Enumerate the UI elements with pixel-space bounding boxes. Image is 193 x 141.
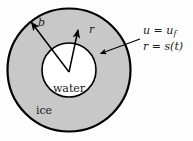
b-vector-label: b [38,16,45,29]
water-region-label: water [53,82,86,95]
ice-water-stefan-diagram: b r water ice u = uf r = s(t) [0,0,193,141]
r-vector-label: r [89,23,95,36]
figure-container: b r water ice u = uf r = s(t) [0,0,193,141]
ice-region-label: ice [36,104,52,117]
interface-position-label: r = s(t) [143,40,183,53]
freezing-temperature-label: u = uf [143,24,178,38]
freezing-temperature-main: u = u [143,24,173,37]
